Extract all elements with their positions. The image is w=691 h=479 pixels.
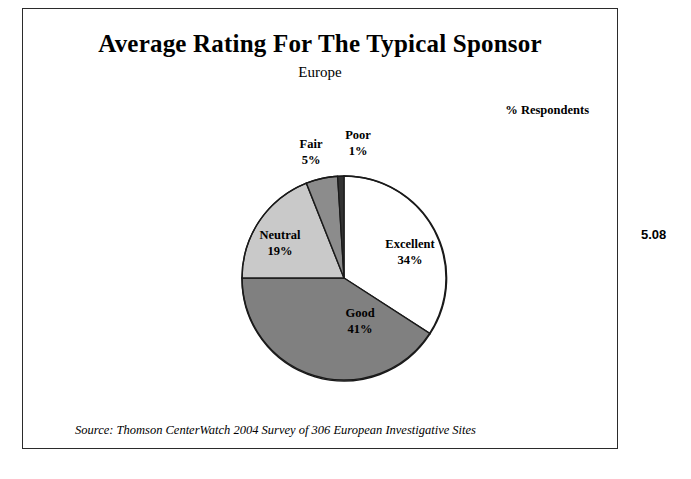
pie-label-neutral-value: 19% [228,244,332,260]
pie-label-excellent-name: Excellent [358,237,462,253]
source-note: Source: Thomson CenterWatch 2004 Survey … [75,423,476,438]
pie-label-good: Good 41% [308,306,412,337]
pie-chart [234,168,454,388]
figure-frame: Average Rating For The Typical Sponsor E… [22,8,618,449]
pie-label-neutral-name: Neutral [228,228,332,244]
pie-label-poor: Poor 1% [328,128,388,159]
chart-subtitle: Europe [23,64,617,81]
page-title: Average Rating For The Typical Sponsor [23,31,617,57]
pie-label-good-name: Good [308,306,412,322]
pie-label-excellent: Excellent 34% [358,237,462,268]
figure-number: 5.08 [641,227,666,242]
pie-label-neutral: Neutral 19% [228,228,332,259]
pie-label-excellent-value: 34% [358,253,462,269]
pie-label-poor-name: Poor [328,128,388,144]
units-note: % Respondents [505,103,589,118]
pie-label-poor-value: 1% [328,144,388,160]
pie-label-good-value: 41% [308,322,412,338]
pie-chart-svg [234,168,454,388]
